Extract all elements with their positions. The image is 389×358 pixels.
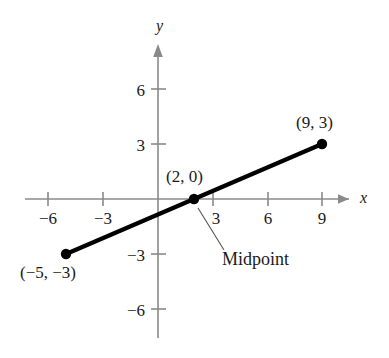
point-dot-midpoint	[189, 194, 199, 204]
y-tick-label-6: 6	[137, 82, 146, 99]
x-axis-arrowhead	[338, 194, 349, 204]
point-label-minus5-minus3: (−5, −3)	[20, 264, 76, 281]
x-tick-label-3: 3	[212, 210, 221, 227]
y-axis-label: y	[156, 18, 163, 34]
x-tick-label-9: 9	[318, 210, 327, 227]
midpoint-annotation-label: Midpoint	[222, 250, 289, 268]
x-tick-label-minus6: −6	[39, 210, 57, 227]
y-tick-label-minus6: −6	[127, 302, 145, 319]
x-tick-label-minus3: −3	[94, 210, 112, 227]
x-tick-label-6: 6	[264, 210, 273, 227]
point-dot-9-3	[317, 139, 327, 149]
y-tick-label-3: 3	[137, 137, 146, 154]
coordinate-plane-figure: y x −6 −3 3 6 9 6 3 −3 −6 (9, 3) (−5, −3…	[0, 0, 389, 358]
point-dot-minus5-minus3	[61, 249, 71, 259]
point-label-midpoint-coords: (2, 0)	[166, 168, 203, 185]
x-axis-label: x	[360, 190, 367, 206]
y-tick-label-minus3: −3	[127, 247, 145, 264]
point-label-9-3: (9, 3)	[296, 114, 333, 131]
y-axis-arrowhead	[153, 44, 163, 57]
